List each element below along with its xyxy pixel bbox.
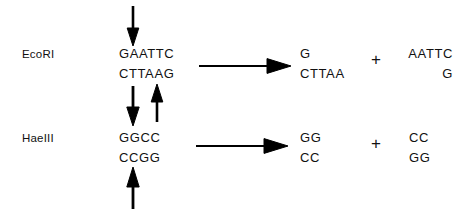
substrate-top-strand-haeiii: GGCC	[119, 130, 160, 145]
product-a-bottom-strand-ecori: CTTAA	[300, 66, 345, 81]
cut-arrow-up-ecori-bottom	[148, 84, 166, 122]
product-b-top-strand-ecori: AATTC	[378, 46, 453, 61]
substrate-top-strand-ecori: GAATTC	[119, 46, 174, 61]
enzyme-label-haeiii: HaeIII	[22, 131, 54, 145]
substrate-bottom-strand-haeiii: CCGG	[119, 150, 160, 165]
product-a-top-strand-ecori: G	[300, 46, 311, 61]
product-a-bottom-strand-haeiii: CC	[300, 150, 320, 165]
enzyme-label-ecori: EcoRI	[22, 47, 54, 61]
substrate-bottom-strand-ecori: CTTAAG	[119, 66, 174, 81]
cut-arrow-down-ecori-top	[124, 6, 142, 46]
reaction-arrow-ecori	[199, 58, 291, 74]
diagram-canvas: EcoRI GAATTC CTTAAG G CTTAA + AATTC G Ha…	[0, 0, 461, 216]
product-b-top-strand-haeiii: CC	[409, 130, 429, 145]
product-b-bottom-strand-haeiii: GG	[409, 150, 430, 165]
cut-arrow-up-haeiii-bottom	[124, 167, 142, 209]
cut-arrow-down-haeiii-top	[124, 86, 142, 126]
plus-sign-haeiii: +	[371, 135, 381, 152]
product-b-bottom-strand-ecori: G	[378, 66, 453, 81]
reaction-arrow-haeiii	[196, 138, 288, 154]
product-a-top-strand-haeiii: GG	[300, 130, 321, 145]
